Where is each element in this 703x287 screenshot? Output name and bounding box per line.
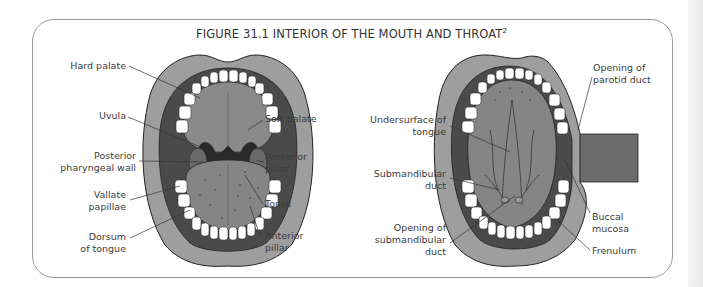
label-anterior-pillar: Anteriorpillar — [265, 230, 303, 254]
label-soft-palate: Soft palate — [265, 113, 317, 125]
label-buccal-mucosa: Buccalmucosa — [592, 211, 629, 235]
label-opening-of-submandibular-duct: Opening ofsubmandibularduct — [360, 222, 446, 258]
label-opening-of-parotid-duct: Opening ofparotid duct — [593, 62, 651, 86]
label-posterior-pharyngeal-wall: Posteriorpharyngeal wall — [56, 150, 136, 174]
label-vallate-papillae: Vallatepapillae — [60, 189, 126, 213]
label-hard-palate: Hard palate — [60, 60, 126, 72]
label-undersurface-of-tongue: Undersurface oftongue — [360, 114, 446, 138]
label-frenulum: Frenulum — [592, 245, 636, 257]
label-posterior-pillar: Posteriorpillar — [265, 151, 307, 175]
cheek-retractor — [573, 134, 639, 182]
label-tonsil: Tonsil — [265, 198, 291, 210]
label-uvula: Uvula — [60, 110, 126, 122]
label-dorsum-of-tongue: Dorsumof tongue — [60, 231, 126, 255]
label-submandibular-duct: Submandibularduct — [360, 168, 446, 192]
